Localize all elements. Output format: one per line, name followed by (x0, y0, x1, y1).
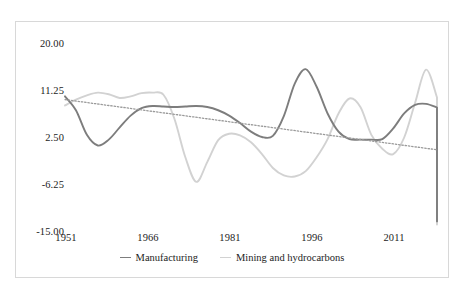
y-axis-tick-label-2: 2.50 (16, 132, 64, 143)
series-line-mining-and-hydrocarbons (65, 70, 437, 225)
series-line-manufacturing (65, 69, 437, 221)
x-axis-tick-label-0: 1951 (45, 232, 87, 243)
x-axis-tick-label-3: 1996 (291, 232, 333, 243)
x-axis-tick-label-4: 2011 (373, 232, 415, 243)
legend-swatch-mining-and-hydrocarbons (220, 257, 231, 258)
y-axis-tick-label-0: 20.00 (16, 38, 64, 49)
legend-swatch-manufacturing (120, 257, 131, 258)
y-axis-tick-label-3: -6.25 (13, 179, 64, 190)
chart-legend: Manufacturing Mining and hydrocarbons (15, 252, 449, 263)
y-axis-tick-label-1: 11.25 (16, 85, 64, 96)
chart-container: 20.00 11.25 2.50 -6.25 -15.00 1951 1966 … (0, 0, 464, 292)
series-lines (65, 69, 437, 225)
legend-label-mining-and-hydrocarbons: Mining and hydrocarbons (236, 252, 344, 263)
x-axis-tick-label-1: 1966 (127, 232, 169, 243)
legend-item-manufacturing[interactable]: Manufacturing (120, 252, 198, 263)
legend-label-manufacturing: Manufacturing (136, 252, 198, 263)
legend-item-mining-and-hydrocarbons[interactable]: Mining and hydrocarbons (220, 252, 344, 263)
chart-plot-svg (0, 0, 464, 292)
x-axis-tick-label-2: 1981 (209, 232, 251, 243)
